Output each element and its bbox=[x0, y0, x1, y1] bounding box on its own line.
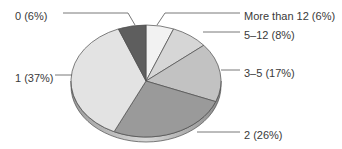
pie-slices bbox=[71, 25, 221, 137]
leader-line bbox=[157, 13, 240, 25]
label-3-5: 3–5 (17%) bbox=[244, 67, 295, 79]
leader-line bbox=[63, 13, 135, 25]
label-0: 0 (6%) bbox=[15, 10, 47, 22]
label-more-than-12: More than 12 (6%) bbox=[244, 10, 335, 22]
label-1: 1 (37%) bbox=[15, 72, 54, 84]
label-5-12: 5–12 (8%) bbox=[244, 29, 295, 41]
label-2: 2 (26%) bbox=[244, 129, 283, 141]
